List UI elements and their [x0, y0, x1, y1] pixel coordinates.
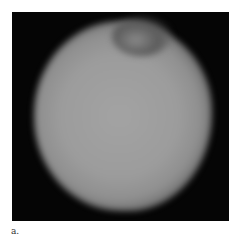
panel-label: a.: [11, 226, 19, 236]
blob-bump: [112, 16, 172, 56]
image-panel: [12, 12, 229, 221]
